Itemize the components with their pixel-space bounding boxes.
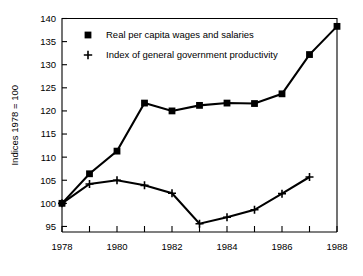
y-tick-label-125: 125 (40, 82, 56, 93)
chart-container: 9510010511011512012513013514019781980198… (0, 0, 363, 276)
data-point-marker (113, 176, 121, 184)
y-tick-label-100: 100 (40, 198, 56, 209)
data-point-marker (306, 51, 313, 58)
data-point-marker (251, 100, 258, 107)
data-point-marker (86, 170, 93, 177)
legend-label-1: Index of general government productivity (106, 49, 278, 60)
legend-label-0: Real per capita wages and salaries (106, 29, 254, 40)
x-tick-label-1986: 1986 (271, 241, 292, 252)
x-tick-label-1984: 1984 (216, 241, 237, 252)
data-point-marker (223, 213, 231, 221)
y-tick-label-135: 135 (40, 36, 56, 47)
x-tick-label-1988: 1988 (326, 241, 347, 252)
y-axis-title: Indices 1978 = 100 (9, 85, 20, 166)
y-tick-label-95: 95 (45, 221, 56, 232)
data-point-marker (141, 100, 148, 107)
data-point-marker (224, 100, 231, 107)
y-tick-label-120: 120 (40, 105, 56, 116)
data-point-marker (196, 102, 203, 109)
x-tick-label-1978: 1978 (51, 241, 72, 252)
data-point-marker (279, 90, 286, 97)
data-point-marker (169, 108, 176, 115)
y-tick-label-140: 140 (40, 13, 56, 24)
y-tick-label-110: 110 (41, 152, 56, 163)
line-chart: 9510010511011512012513013514019781980198… (0, 0, 363, 276)
x-tick-label-1982: 1982 (161, 241, 182, 252)
legend-marker-plus (84, 51, 92, 59)
data-point-marker (141, 181, 149, 189)
x-tick-label-1980: 1980 (106, 241, 127, 252)
y-tick-label-130: 130 (40, 59, 56, 70)
legend-marker-square (85, 32, 92, 39)
data-point-marker (334, 23, 341, 30)
y-tick-label-105: 105 (40, 175, 56, 186)
data-point-marker (114, 148, 121, 155)
y-tick-label-115: 115 (41, 128, 56, 139)
series-line-1 (62, 177, 310, 224)
